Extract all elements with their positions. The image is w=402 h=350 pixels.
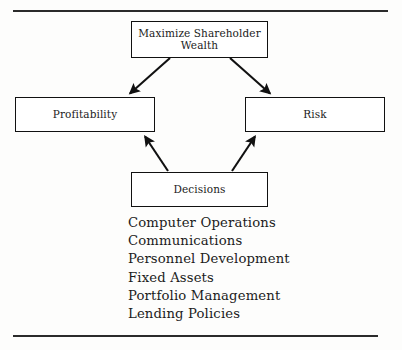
edge-decisions-to-profitability — [145, 137, 168, 172]
node-label: Profitability — [49, 109, 121, 121]
list-item: Fixed Assets — [128, 269, 378, 287]
node-profitability: Profitability — [15, 97, 155, 132]
list-item: Portfolio Management — [128, 287, 378, 305]
edge-decisions-to-risk — [232, 137, 255, 172]
edge-goal-to-profitability — [130, 58, 170, 94]
edge-goal-to-risk — [230, 58, 270, 94]
node-label: Decisions — [170, 184, 230, 196]
node-risk: Risk — [245, 97, 385, 132]
top-horizontal-rule — [13, 10, 388, 12]
list-item: Communications — [128, 232, 378, 250]
list-item: Computer Operations — [128, 214, 378, 232]
list-item: Personnel Development — [128, 250, 378, 268]
node-label: Risk — [299, 109, 330, 121]
bottom-horizontal-rule — [13, 335, 378, 337]
node-maximize-shareholder-wealth: Maximize Shareholder Wealth — [131, 21, 268, 58]
diagram-page: Maximize Shareholder Wealth Profitabilit… — [0, 0, 402, 350]
node-label: Maximize Shareholder Wealth — [134, 28, 265, 52]
node-decisions: Decisions — [131, 172, 268, 207]
list-item: Lending Policies — [128, 305, 378, 323]
decision-areas-list: Computer Operations Communications Perso… — [128, 214, 378, 323]
